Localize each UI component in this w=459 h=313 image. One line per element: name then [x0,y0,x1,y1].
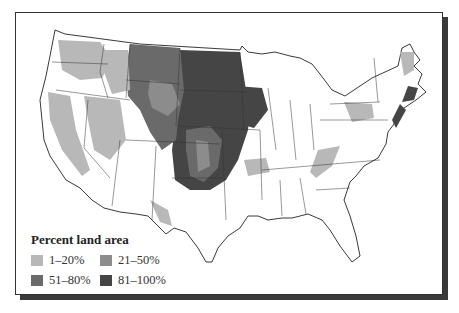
legend-item-51-80: 51–80% [31,273,100,288]
legend-item-21-50: 21–50% [100,253,190,268]
swatch-1-20 [31,255,43,266]
legend-label: 81–100% [118,273,166,288]
legend-item-81-100: 81–100% [100,273,190,288]
swatch-21-50 [100,255,112,266]
legend-label: 1–20% [49,253,84,268]
legend: Percent land area 1–20% 21–50% 51–80% 81… [31,232,190,288]
swatch-81-100 [100,275,112,286]
legend-item-1-20: 1–20% [31,253,100,268]
legend-title: Percent land area [31,232,190,248]
swatch-51-80 [31,275,43,286]
legend-label: 51–80% [49,273,91,288]
legend-label: 21–50% [118,253,160,268]
